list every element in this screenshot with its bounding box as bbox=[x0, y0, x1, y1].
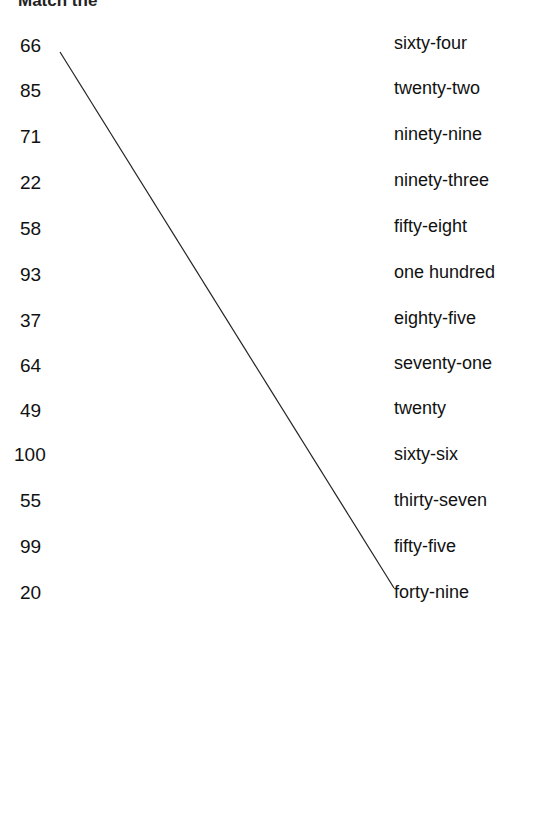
left-item[interactable]: 85 bbox=[20, 80, 41, 102]
right-item[interactable]: one hundred bbox=[394, 262, 495, 283]
left-item[interactable]: 20 bbox=[20, 582, 41, 604]
connection-line-66-sixty-six bbox=[60, 52, 394, 588]
left-item[interactable]: 37 bbox=[20, 310, 41, 332]
right-item[interactable]: ninety-three bbox=[394, 170, 489, 191]
left-item[interactable]: 58 bbox=[20, 218, 41, 240]
right-item[interactable]: thirty-seven bbox=[394, 490, 487, 511]
left-item[interactable]: 49 bbox=[20, 400, 41, 422]
right-item[interactable]: sixty-six bbox=[394, 444, 458, 465]
left-item[interactable]: 93 bbox=[20, 264, 41, 286]
right-item[interactable]: fifty-five bbox=[394, 536, 456, 557]
right-item[interactable]: fifty-eight bbox=[394, 216, 467, 237]
left-item[interactable]: 100 bbox=[14, 444, 46, 466]
right-item[interactable]: sixty-four bbox=[394, 33, 467, 54]
left-item[interactable]: 99 bbox=[20, 536, 41, 558]
left-item[interactable]: 64 bbox=[20, 355, 41, 377]
left-item[interactable]: 22 bbox=[20, 172, 41, 194]
left-item[interactable]: 55 bbox=[20, 490, 41, 512]
right-item[interactable]: twenty bbox=[394, 398, 446, 419]
right-item[interactable]: ninety-nine bbox=[394, 124, 482, 145]
left-item[interactable]: 66 bbox=[20, 35, 41, 57]
left-item[interactable]: 71 bbox=[20, 126, 41, 148]
right-item[interactable]: eighty-five bbox=[394, 308, 476, 329]
right-item[interactable]: forty-nine bbox=[394, 582, 469, 603]
right-item[interactable]: twenty-two bbox=[394, 78, 480, 99]
right-item[interactable]: seventy-one bbox=[394, 353, 492, 374]
